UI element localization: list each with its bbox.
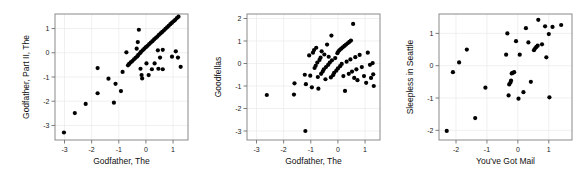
x-tick-label: 0 <box>336 146 340 153</box>
data-point <box>307 53 311 57</box>
data-point <box>304 82 308 86</box>
panel-sleepless-in-seattle: -2-10110-1-2You've Got MailSleepless in … <box>384 0 576 185</box>
data-point <box>524 26 528 30</box>
data-point <box>84 102 88 106</box>
data-point <box>369 76 373 80</box>
data-point <box>536 44 540 48</box>
data-point <box>112 101 116 105</box>
data-point <box>138 67 142 71</box>
y-tick-label: -3 <box>43 122 49 129</box>
data-point <box>323 77 327 81</box>
data-point <box>516 97 520 101</box>
data-point <box>559 23 563 27</box>
x-tick-label: -2 <box>89 146 95 153</box>
y-tick-label: 1 <box>46 25 50 32</box>
data-point <box>506 93 510 97</box>
data-point <box>550 25 554 29</box>
data-point <box>265 93 269 97</box>
x-tick-label: -1 <box>484 146 490 153</box>
data-point <box>318 56 322 60</box>
data-point <box>303 73 307 77</box>
x-tick-label: -1 <box>116 146 122 153</box>
panel-2-svg: -3-2-101210-1-2-3Godfather, TheGoodfella… <box>192 0 384 185</box>
data-point <box>518 53 522 57</box>
data-point <box>156 48 160 52</box>
data-point <box>314 46 318 50</box>
data-point <box>147 73 151 77</box>
data-point <box>176 56 180 60</box>
x-tick-label: 1 <box>547 146 551 153</box>
data-point <box>536 18 540 22</box>
data-point <box>322 52 326 56</box>
data-point <box>340 62 344 66</box>
data-point <box>113 82 117 86</box>
data-point <box>329 34 333 38</box>
data-point <box>161 48 165 52</box>
data-point <box>140 76 144 80</box>
y-tick-label: 1 <box>238 38 242 45</box>
data-point <box>124 50 128 54</box>
data-point <box>526 40 530 44</box>
data-point <box>119 89 123 93</box>
data-point <box>310 85 314 89</box>
data-point <box>504 53 508 57</box>
data-point <box>106 77 110 81</box>
y-tick-label: 2 <box>238 15 242 22</box>
data-point <box>483 86 487 90</box>
data-point <box>465 47 469 51</box>
data-point <box>355 78 359 82</box>
x-axis-title: Godfather, The <box>93 156 150 166</box>
x-tick-label: 0 <box>516 146 520 153</box>
data-point <box>303 129 307 133</box>
y-tick-label: -1 <box>43 74 49 81</box>
data-point <box>179 65 183 69</box>
data-point <box>137 28 141 32</box>
data-point <box>327 55 331 59</box>
y-tick-label: 0 <box>430 62 434 69</box>
data-point <box>174 49 178 53</box>
data-point <box>451 70 455 74</box>
data-point <box>372 84 376 88</box>
x-axis-title: You've Got Mail <box>476 156 535 166</box>
data-point <box>529 80 533 84</box>
data-point <box>62 130 66 134</box>
data-point <box>343 89 347 93</box>
y-axis-title: Goodfellas <box>213 57 223 98</box>
x-tick-label: -3 <box>61 146 67 153</box>
data-point <box>543 24 547 28</box>
y-tick-label: -2 <box>235 105 241 112</box>
data-point <box>150 67 154 71</box>
data-point <box>362 74 366 78</box>
data-point <box>350 70 354 74</box>
data-point <box>445 129 449 133</box>
data-point <box>96 66 100 70</box>
data-point <box>345 60 349 64</box>
data-point <box>156 67 160 71</box>
x-tick-label: -2 <box>453 146 459 153</box>
data-point <box>325 43 329 47</box>
data-point <box>176 15 180 19</box>
data-point <box>341 74 345 78</box>
data-point <box>161 67 165 71</box>
data-point <box>136 40 140 44</box>
data-point <box>135 47 139 51</box>
data-point <box>292 92 296 96</box>
data-point <box>316 75 320 79</box>
data-point <box>457 60 461 64</box>
data-point <box>353 55 357 59</box>
data-point <box>348 57 352 61</box>
data-point <box>333 56 337 60</box>
data-point <box>73 111 77 115</box>
y-axis-title: Sleepless in Seattle <box>405 39 415 114</box>
x-tick-label: -1 <box>308 146 314 153</box>
data-point <box>96 91 100 95</box>
data-point <box>547 32 551 36</box>
y-tick-label: -1 <box>235 83 241 90</box>
panel-3-svg: -2-10110-1-2You've Got MailSleepless in … <box>384 0 576 185</box>
data-point <box>354 67 358 71</box>
y-tick-label: 0 <box>238 60 242 67</box>
data-point <box>547 95 551 99</box>
data-point <box>316 87 320 91</box>
y-axis-title: Godfather, Part II, The <box>21 35 31 119</box>
data-point <box>540 42 544 46</box>
